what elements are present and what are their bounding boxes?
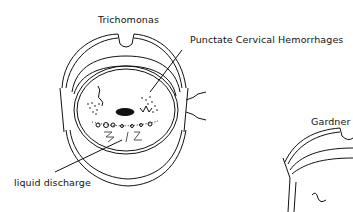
label-liquid-discharge: liquid discharge: [14, 178, 91, 188]
gardner-drawing: [283, 128, 353, 212]
label-gardner: Gardner: [311, 117, 350, 127]
label-punctate-cervical-hemorrhages: Punctate Cervical Hemorrhages: [190, 35, 343, 45]
trichomonas-drawing: [55, 34, 206, 186]
label-trichomonas: Trichomonas: [98, 15, 159, 25]
